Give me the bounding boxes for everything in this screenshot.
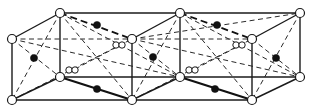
lattice-atom-icon [296,73,305,82]
small-open-atom-icon [72,67,78,73]
filled-atom-icon [93,21,100,28]
small-open-atom-icon [66,67,72,73]
solid-edge [252,77,300,100]
lattice-atom-icon [8,96,17,105]
solid-edge [132,77,180,100]
lattice-atom-icon [128,96,137,105]
lattice-atom-icon [8,35,17,44]
filled-atom-icon [213,21,220,28]
lattice-atom-icon [248,35,257,44]
lattice-atom-icon [56,9,65,18]
filled-atom-icon [211,85,218,92]
small-open-atom-icon [113,42,119,48]
small-open-atom-icon [192,67,198,73]
solid-edge [12,13,60,39]
lattice-atom-icon [248,96,257,105]
solid-edge [132,13,180,39]
lattice-atom-icon [176,9,185,18]
small-open-atom-icon [239,42,245,48]
filled-atom-icon [272,54,279,61]
filled-atom-icon [149,53,156,60]
solid-edge [12,77,60,100]
small-open-atom-icon [233,42,239,48]
filled-atoms [30,21,279,92]
lattice-atom-icon [128,35,137,44]
filled-atom-icon [93,85,100,92]
small-open-atom-icon [186,67,192,73]
lattice-atom-icon [296,9,305,18]
lattice-atom-icon [56,73,65,82]
small-open-atom-icon [119,42,125,48]
crystal-lattice-diagram [0,0,311,112]
lattice-atom-icon [176,73,185,82]
filled-atom-icon [30,54,37,61]
